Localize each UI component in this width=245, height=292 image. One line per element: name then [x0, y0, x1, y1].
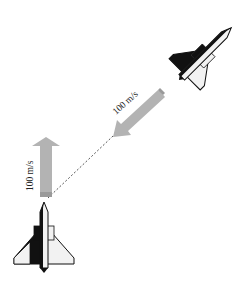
aircraft-velocity-diagram: 100 m/s 100 m/s [0, 0, 245, 292]
jet-plane-b [14, 202, 74, 273]
velocity-arrow-plane-b [32, 137, 60, 197]
jet-plane-a [163, 12, 245, 95]
velocity-label-plane-b: 100 m/s [25, 160, 35, 191]
